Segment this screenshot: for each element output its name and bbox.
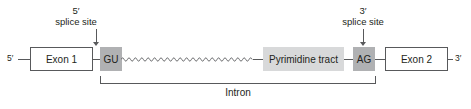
motif-ag-box: AG [353, 47, 375, 71]
motif-gu-box: GU [100, 47, 122, 71]
splicing-diagram: 5′ splice site 3′ splice site 5′ 3′ Exon… [0, 0, 471, 109]
intron-squiggle-line [121, 52, 254, 67]
intron-label: Intron [100, 87, 376, 98]
callout-5prime-line2: splice site [38, 16, 114, 27]
backbone-left-tail [18, 59, 30, 60]
motif-gu-label: GU [104, 54, 119, 65]
callout-3prime-arrow-line [363, 29, 364, 43]
callout-5prime-arrow-head-icon [93, 42, 99, 46]
motif-ag-label: AG [357, 54, 371, 65]
callout-3prime-arrow-head-icon [360, 42, 366, 46]
three-prime-end-label: 3′ [455, 53, 461, 63]
exon-2-box: Exon 2 [385, 47, 448, 71]
backbone-exon1-to-gu [93, 59, 100, 60]
callout-3prime-line2: splice site [325, 16, 401, 27]
backbone-ag-to-exon2 [375, 59, 385, 60]
exon-1-label: Exon 1 [46, 54, 77, 65]
exon-2-label: Exon 2 [401, 54, 432, 65]
callout-3prime-splice-site: 3′ splice site [325, 5, 401, 27]
callout-5prime-splice-site: 5′ splice site [38, 5, 114, 27]
callout-5prime-line1: 5′ [38, 5, 114, 16]
callout-3prime-line1: 3′ [325, 5, 401, 16]
motif-pyrimidine-tract-box: Pyrimidine tract [263, 47, 344, 71]
exon-1-box: Exon 1 [30, 47, 93, 71]
backbone-squiggle-to-pyrimidine [253, 59, 263, 60]
backbone-pyrimidine-to-ag [344, 59, 353, 60]
intron-bracket [100, 76, 376, 84]
motif-pyrimidine-tract-label: Pyrimidine tract [269, 54, 338, 65]
callout-5prime-arrow-line [96, 29, 97, 43]
five-prime-end-label: 5′ [7, 53, 13, 63]
